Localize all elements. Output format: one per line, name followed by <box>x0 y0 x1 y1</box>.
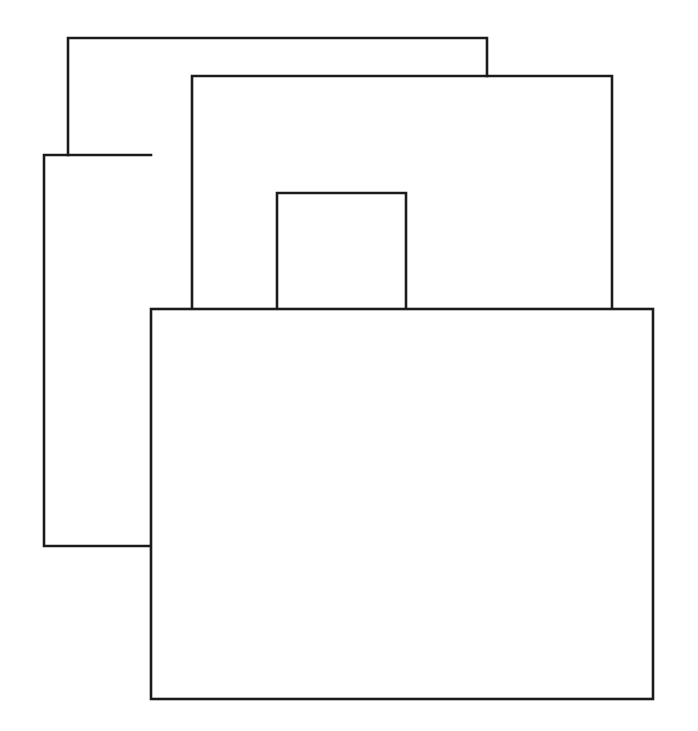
figure-svg <box>0 0 698 731</box>
overlapping-windows-figure <box>0 0 698 731</box>
window-front-outline <box>151 309 653 699</box>
